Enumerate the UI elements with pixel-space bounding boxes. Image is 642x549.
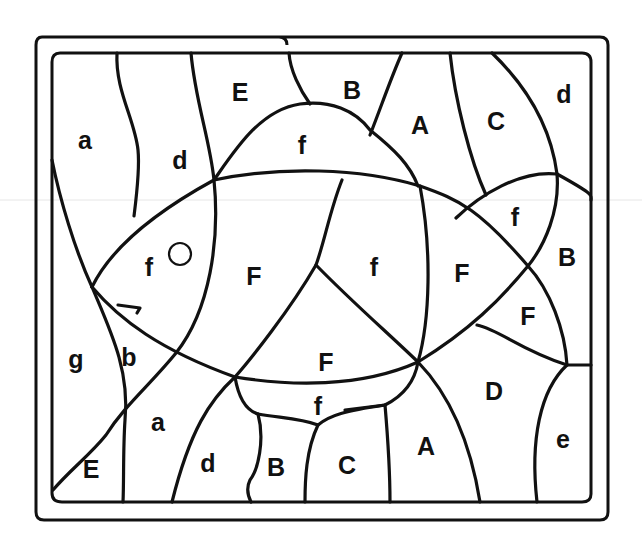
region-label: d (556, 80, 571, 108)
region-label: F (520, 302, 535, 330)
region-label: B (343, 76, 361, 104)
region-label: C (487, 107, 505, 135)
fish-eye (169, 243, 191, 265)
coloring-page: a d E f B A C d f F f F f B F F g b f D … (0, 0, 642, 549)
region-label: a (78, 126, 93, 154)
region-label: F (454, 259, 469, 287)
region-label: E (232, 78, 249, 106)
inner-frame (52, 53, 591, 502)
region-label: F (246, 262, 261, 290)
region-label: d (172, 146, 187, 174)
region-label: E (83, 455, 100, 483)
region-label: A (417, 432, 435, 460)
outer-frame (36, 37, 608, 520)
region-label: b (121, 343, 136, 371)
region-label: f (298, 131, 307, 159)
region-label: d (200, 449, 215, 477)
region-label: f (145, 253, 154, 281)
region-outlines (52, 53, 591, 502)
region-label: C (338, 451, 356, 479)
region-label: F (318, 348, 333, 376)
region-label: B (558, 243, 576, 271)
region-label: A (411, 111, 429, 139)
region-label: B (267, 453, 285, 481)
region-label: f (370, 253, 379, 281)
region-label: e (556, 425, 570, 453)
region-label: f (511, 203, 520, 231)
region-label: g (68, 345, 83, 373)
region-label: D (485, 377, 503, 405)
region-label: a (151, 408, 166, 436)
region-label: f (314, 392, 323, 420)
